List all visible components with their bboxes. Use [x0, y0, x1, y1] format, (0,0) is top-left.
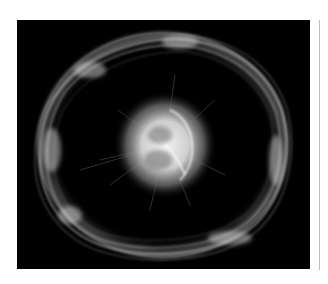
divider-line — [319, 20, 320, 270]
micrograph-image — [17, 20, 310, 269]
micrograph-panel — [17, 20, 310, 269]
